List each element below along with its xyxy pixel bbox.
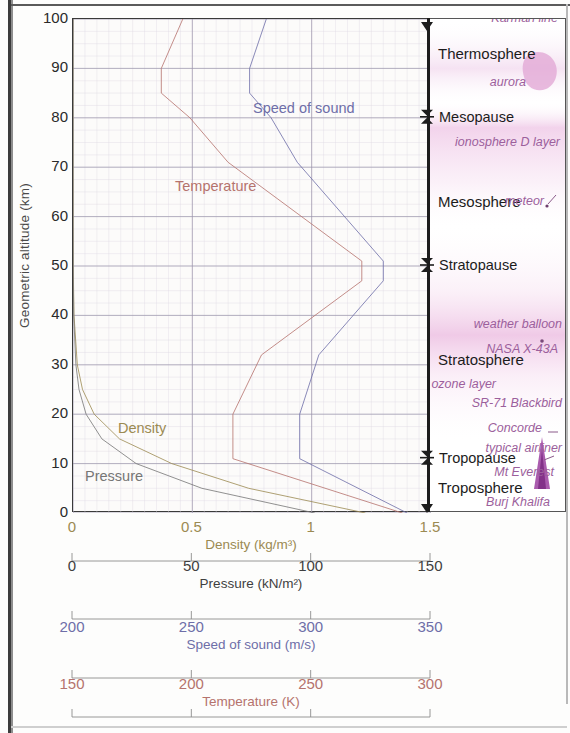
y-tick-10: 10 <box>32 455 68 470</box>
annotation-weather-balloon: weather balloon <box>474 317 562 331</box>
plot-canvas <box>73 19 431 513</box>
tick-label: 200 <box>59 618 84 635</box>
tick-label: 250 <box>179 618 204 635</box>
series-label-density: Density <box>118 420 166 436</box>
annotation-ionosphere-d-layer: ionosphere D layer <box>455 135 560 149</box>
series-label-temperature: Temperature <box>175 178 256 194</box>
boundary-mesopause: Mesopause <box>439 109 514 125</box>
tick-label: 0 <box>68 518 76 535</box>
page-top-edge <box>11 4 570 6</box>
y-tick-80: 80 <box>32 109 68 124</box>
tick-label: 0 <box>68 557 76 574</box>
y-tick-50: 50 <box>32 257 68 272</box>
axis-rule <box>67 707 435 721</box>
annotation-nasa-x-43a: NASA X-43A <box>486 342 558 356</box>
page-bottom-edge <box>11 726 567 728</box>
tick-label: 300 <box>298 618 323 635</box>
y-tick-30: 30 <box>32 356 68 371</box>
series-label-speed-of-sound: Speed of sound <box>253 100 355 116</box>
annotation-concorde: Concorde <box>488 421 542 435</box>
axis-caption: Density (kg/m³) <box>205 537 297 552</box>
grid-lines <box>73 19 431 513</box>
tick-label: 0.5 <box>181 518 202 535</box>
tick-label: 100 <box>298 557 323 574</box>
tick-label: 1 <box>306 518 314 535</box>
page-left-edge-inner <box>11 0 13 733</box>
y-tick-40: 40 <box>32 306 68 321</box>
tick-label: 150 <box>417 557 442 574</box>
tick-label: 150 <box>59 675 84 692</box>
axis-rule <box>67 668 435 682</box>
series-label-pressure: Pressure <box>85 468 143 484</box>
y-tick-20: 20 <box>32 405 68 420</box>
annotation-meteor: meteor <box>505 194 544 208</box>
y-tick-0: 0 <box>32 504 68 519</box>
tick-label: 350 <box>417 618 442 635</box>
annotation-aurora: aurora <box>490 75 526 89</box>
tick-label: 1.5 <box>420 518 441 535</box>
axis-caption: Speed of sound (m/s) <box>186 637 315 652</box>
tick-label: 300 <box>417 675 442 692</box>
axis-caption: Pressure (kN/m²) <box>200 576 303 591</box>
atmosphere-profile-plot <box>72 18 430 512</box>
annotation-sr-71-blackbird: SR-71 Blackbird <box>472 396 562 410</box>
page-right-edge <box>566 4 568 704</box>
y-tick-60: 60 <box>32 208 68 223</box>
y-tick-100: 100 <box>32 10 68 25</box>
annotation-mt-everest: Mt Everest <box>494 465 554 479</box>
y-tick-70: 70 <box>32 158 68 173</box>
annotation-burj-khalifa: Burj Khalifa <box>486 495 550 509</box>
tick-label: 50 <box>183 557 200 574</box>
y-tick-90: 90 <box>32 59 68 74</box>
atmosphere-layer-column: ThermosphereMesosphereStratosphereTropos… <box>430 18 566 512</box>
y-axis-title: Geometric altitude (km) <box>17 146 32 366</box>
axis-rule <box>67 551 435 565</box>
boundary-markers <box>414 10 444 520</box>
layer-name-thermosphere: Thermosphere <box>438 45 536 62</box>
tick-label: 250 <box>298 675 323 692</box>
axis-rule <box>67 609 435 623</box>
annotation-k-rm-n-line: Kármán line <box>491 18 558 25</box>
boundary-tropopause: Tropopause <box>439 450 516 466</box>
tick-label: 200 <box>179 675 204 692</box>
layer-name-troposphere: Troposphere <box>438 479 523 496</box>
boundary-stratopause: Stratopause <box>439 257 517 273</box>
